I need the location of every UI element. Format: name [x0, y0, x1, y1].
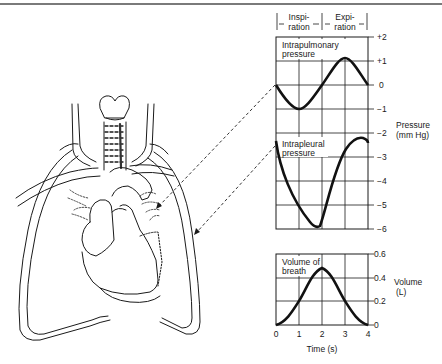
volume-axis-label-line1: Volume — [394, 277, 423, 287]
phase-inspiration-line2: ration — [288, 22, 310, 32]
phase-expiration-line2: ration — [334, 22, 356, 32]
pressure-tick: −4 — [377, 176, 387, 186]
lung-illustration — [16, 96, 200, 340]
intrapleural-label-line2: pressure — [282, 148, 315, 158]
pressure-axis-label-line1: Pressure — [396, 120, 430, 130]
hilum — [68, 190, 160, 220]
time-tick: 2 — [320, 329, 325, 339]
time-tick: 4 — [366, 329, 371, 339]
volume-label-line2: breath — [282, 266, 306, 276]
volume-tick: 0 — [374, 320, 379, 330]
time-axis-label: Time (s) — [307, 344, 338, 354]
pressure-tick: +2 — [377, 32, 387, 42]
pressure-axis-label-line2: (mm Hg) — [396, 130, 429, 140]
right-lung-outline — [154, 152, 200, 334]
pressure-chart: Intrapulmonary pressure Intrapleural pre… — [276, 32, 430, 234]
pleural-pointer-arrow — [197, 146, 275, 232]
phase-inspiration-line1: Inspi- — [289, 12, 310, 22]
pressure-tick: −1 — [377, 104, 387, 114]
volume-axis-label-line2: (L) — [396, 287, 407, 297]
volume-tick: 0.2 — [374, 296, 386, 306]
heart — [82, 200, 114, 256]
pressure-tick: −5 — [377, 200, 387, 210]
pressure-tick: −3 — [377, 152, 387, 162]
volume-chart: Volume of breath 0.6 0.4 0.2 0 Volume (L… — [274, 249, 423, 354]
pressure-tick: −6 — [377, 224, 387, 234]
pressure-tick: −2 — [377, 128, 387, 138]
time-tick: 0 — [274, 329, 279, 339]
pressure-tick: 0 — [379, 80, 384, 90]
pressure-tick: +1 — [377, 56, 387, 66]
time-tick: 1 — [297, 329, 302, 339]
thyroid-cartilage — [100, 96, 130, 118]
figure: Inspi- ration Expi- ration Intrapulmonar… — [0, 0, 442, 364]
phase-expiration-line1: Expi- — [335, 12, 355, 22]
alveolar-pointer-arrow — [159, 85, 275, 206]
left-lung-outline — [19, 150, 110, 340]
volume-tick: 0.4 — [374, 273, 386, 283]
time-tick: 3 — [343, 329, 348, 339]
trachea — [104, 122, 126, 170]
intrapulmonary-label-line2: pressure — [282, 49, 315, 59]
pointer-arrows — [159, 85, 275, 232]
volume-tick: 0.6 — [374, 249, 386, 259]
